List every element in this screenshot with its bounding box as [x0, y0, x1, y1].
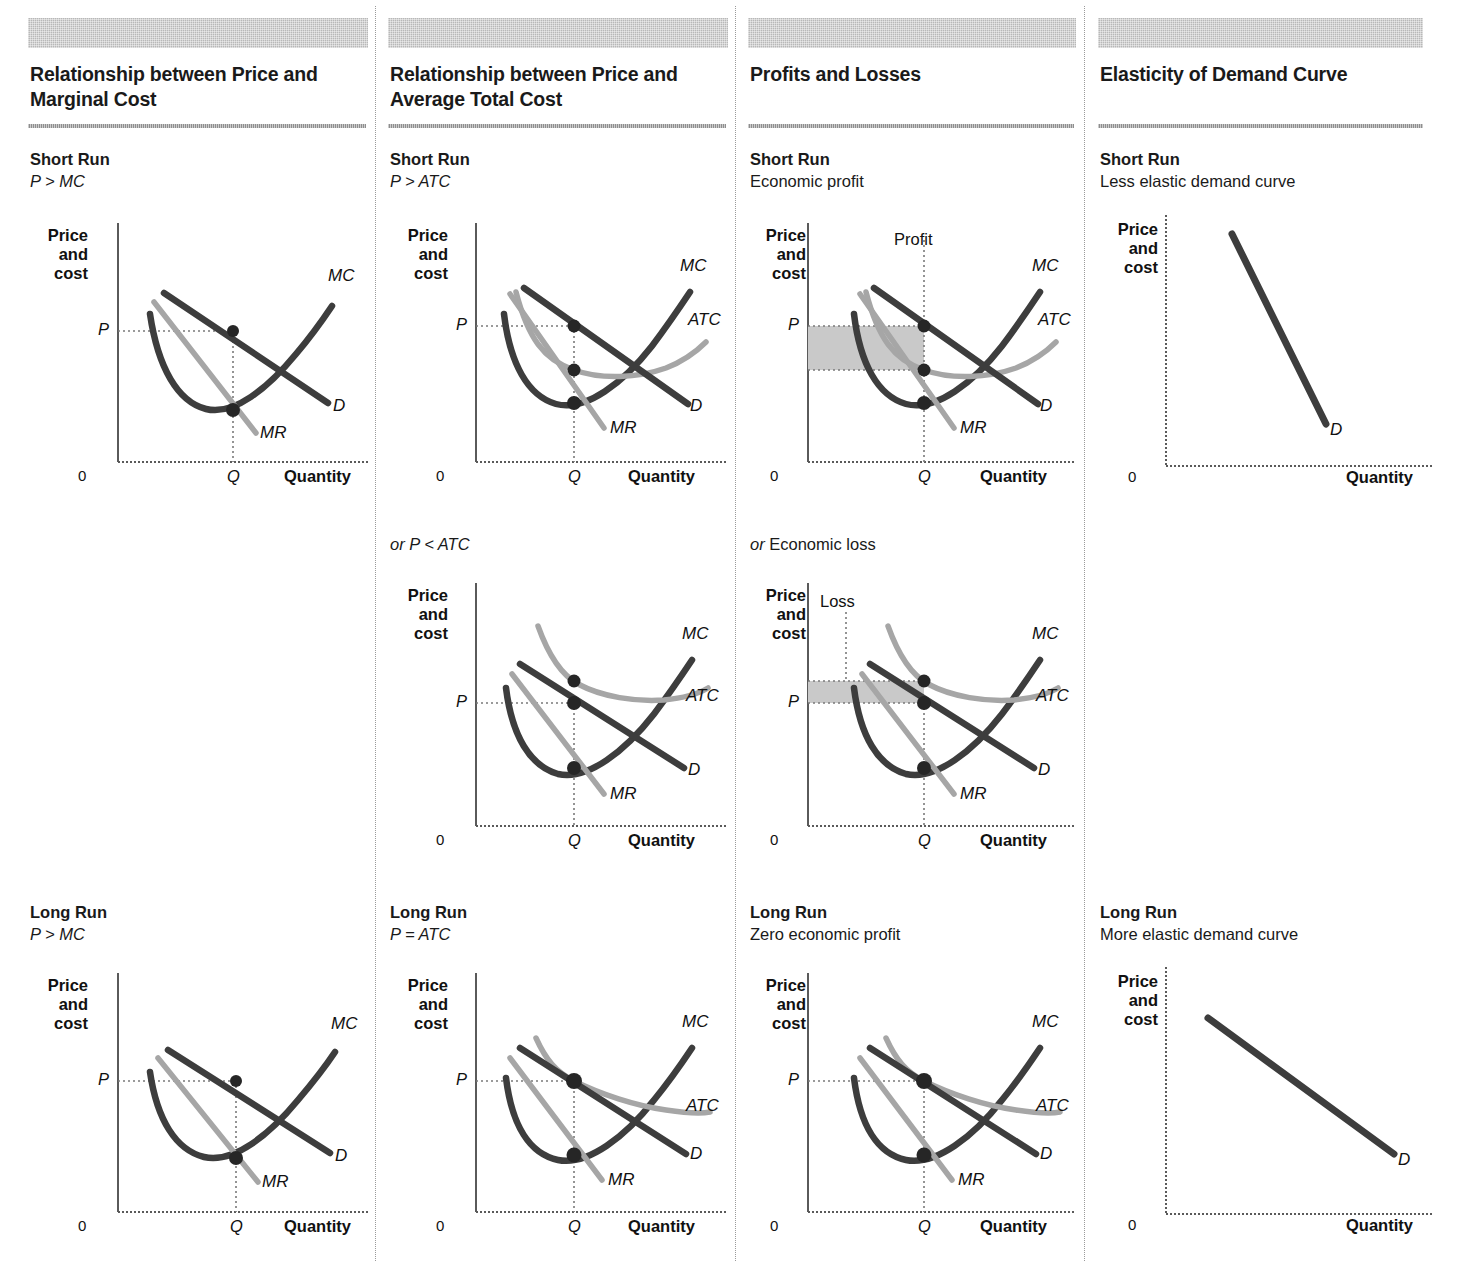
column-title: Elasticity of Demand Curve	[1100, 62, 1438, 87]
section-run-label: Long Run	[30, 903, 107, 922]
chart-c4-short-run: Price and cost 0 Quantity D	[1098, 210, 1438, 475]
chart-c1-short-run: Price and cost P Q 0 Quantity MC D MR	[28, 218, 373, 468]
x-axis-title: Quantity	[980, 1217, 1047, 1236]
y-tick-price: P	[788, 692, 799, 711]
origin-label: 0	[770, 467, 778, 484]
curve-label-d: D	[1398, 1150, 1410, 1170]
column-title: Profits and Losses	[750, 62, 1078, 87]
curve-label-mr: MR	[608, 1170, 634, 1190]
x-tick-quantity: Q	[568, 467, 581, 486]
curve-label-mr: MR	[610, 784, 636, 804]
y-tick-price: P	[788, 315, 799, 334]
curve-label-mr: MR	[960, 418, 986, 438]
curve-label-mr: MR	[260, 423, 286, 443]
column-profits-and-losses: Profits and Losses Short Run Economic pr…	[748, 0, 1078, 1273]
curve-label-d: D	[1040, 1144, 1052, 1164]
column-divider	[735, 6, 736, 1261]
curve-label-d: D	[333, 396, 345, 416]
column-title: Relationship between Price and Average T…	[390, 62, 730, 112]
x-tick-quantity: Q	[918, 831, 931, 850]
y-axis-title: Price and cost	[744, 586, 806, 643]
column-divider	[375, 6, 376, 1261]
column-header-bar	[1098, 18, 1423, 48]
curve-label-d: D	[688, 760, 700, 780]
chart-c2-short-run-alt: Price and cost P Q 0 Quantity MC ATC D	[388, 578, 733, 833]
curve-label-mc: MC	[328, 266, 354, 286]
section-run-label: Short Run	[390, 150, 470, 169]
curve-label-atc: ATC	[1036, 686, 1069, 706]
origin-label: 0	[436, 467, 444, 484]
section-run-sub: Economic profit	[750, 172, 864, 191]
annotation-loss: Loss	[820, 592, 855, 611]
origin-label: 0	[436, 1217, 444, 1234]
x-tick-quantity: Q	[568, 831, 581, 850]
origin-label: 0	[436, 831, 444, 848]
curve-label-mc: MC	[1032, 624, 1058, 644]
curve-label-mc: MC	[331, 1014, 357, 1034]
y-axis-title: Price and cost	[26, 226, 88, 283]
x-tick-quantity: Q	[568, 1217, 581, 1236]
section-run-sub-text: Economic loss	[769, 535, 875, 553]
curve-label-mc: MC	[1032, 1012, 1058, 1032]
origin-label: 0	[770, 831, 778, 848]
curve-label-d: D	[1038, 760, 1050, 780]
x-axis-title: Quantity	[284, 1217, 351, 1236]
x-axis-title: Quantity	[1346, 468, 1413, 487]
x-axis-title: Quantity	[980, 467, 1047, 486]
column-header-bar	[28, 18, 368, 48]
y-axis-title: Price and cost	[26, 976, 88, 1033]
x-tick-quantity: Q	[230, 1217, 243, 1236]
y-axis-title: Price and cost	[744, 976, 806, 1033]
y-tick-price: P	[98, 320, 109, 339]
x-axis-title: Quantity	[1346, 1216, 1413, 1235]
title-rule	[28, 124, 366, 128]
y-axis-title: Price and cost	[1096, 220, 1158, 277]
section-run-label: Long Run	[390, 903, 467, 922]
y-tick-price: P	[456, 1070, 467, 1089]
curve-label-mc: MC	[682, 1012, 708, 1032]
x-axis-title: Quantity	[284, 467, 351, 486]
section-run-sub: Zero economic profit	[750, 925, 900, 944]
section-run-sub: Less elastic demand curve	[1100, 172, 1295, 191]
section-run-label: Short Run	[1100, 150, 1180, 169]
origin-label: 0	[78, 1217, 86, 1234]
origin-label: 0	[770, 1217, 778, 1234]
curve-label-mc: MC	[682, 624, 708, 644]
curve-label-d: D	[1040, 396, 1052, 416]
section-run-sub: P > MC	[30, 172, 85, 191]
column-elasticity-of-demand-curve: Elasticity of Demand Curve Short Run Les…	[1098, 0, 1438, 1273]
curve-label-atc: ATC	[1036, 1096, 1069, 1116]
origin-label: 0	[1128, 1216, 1136, 1233]
x-axis-title: Quantity	[980, 831, 1047, 850]
curve-label-atc: ATC	[688, 310, 721, 330]
y-axis-title: Price and cost	[386, 586, 448, 643]
x-tick-quantity: Q	[227, 467, 240, 486]
section-run-sub: or P < ATC	[390, 535, 470, 554]
column-divider	[1084, 6, 1085, 1261]
curve-label-atc: ATC	[1038, 310, 1071, 330]
chart-c3-short-run: Price and cost Profit P Q 0 Quantity	[748, 218, 1078, 468]
title-rule	[388, 124, 726, 128]
y-tick-price: P	[456, 692, 467, 711]
column-header-bar	[748, 18, 1076, 48]
curve-label-d: D	[690, 1144, 702, 1164]
chart-c4-long-run: Price and cost 0 Quantity D	[1098, 962, 1438, 1227]
chart-c1-long-run: Price and cost P Q 0 Quantity MC D MR	[28, 968, 373, 1218]
section-run-label: Long Run	[750, 903, 827, 922]
figure-sheet: Relationship between Price and Marginal …	[0, 0, 1463, 1273]
curve-label-mr: MR	[262, 1172, 288, 1192]
chart-c2-long-run: Price and cost P Q 0 Quantity MC ATC D M…	[388, 968, 733, 1218]
column-title: Relationship between Price and Marginal …	[30, 62, 370, 112]
section-run-sub: or Economic loss	[750, 535, 876, 554]
chart-c2-short-run: Price and cost P Q 0 Quantity MC ATC D	[388, 218, 733, 468]
or-prefix: or	[750, 535, 765, 553]
curve-label-mc: MC	[1032, 256, 1058, 276]
section-run-sub: P = ATC	[390, 925, 450, 944]
section-run-label: Short Run	[750, 150, 830, 169]
curve-label-atc: ATC	[686, 686, 719, 706]
x-axis-title: Quantity	[628, 831, 695, 850]
column-price-average-total-cost: Relationship between Price and Average T…	[388, 0, 733, 1273]
x-tick-quantity: Q	[918, 1217, 931, 1236]
column-header-bar	[388, 18, 728, 48]
section-run-label: Long Run	[1100, 903, 1177, 922]
